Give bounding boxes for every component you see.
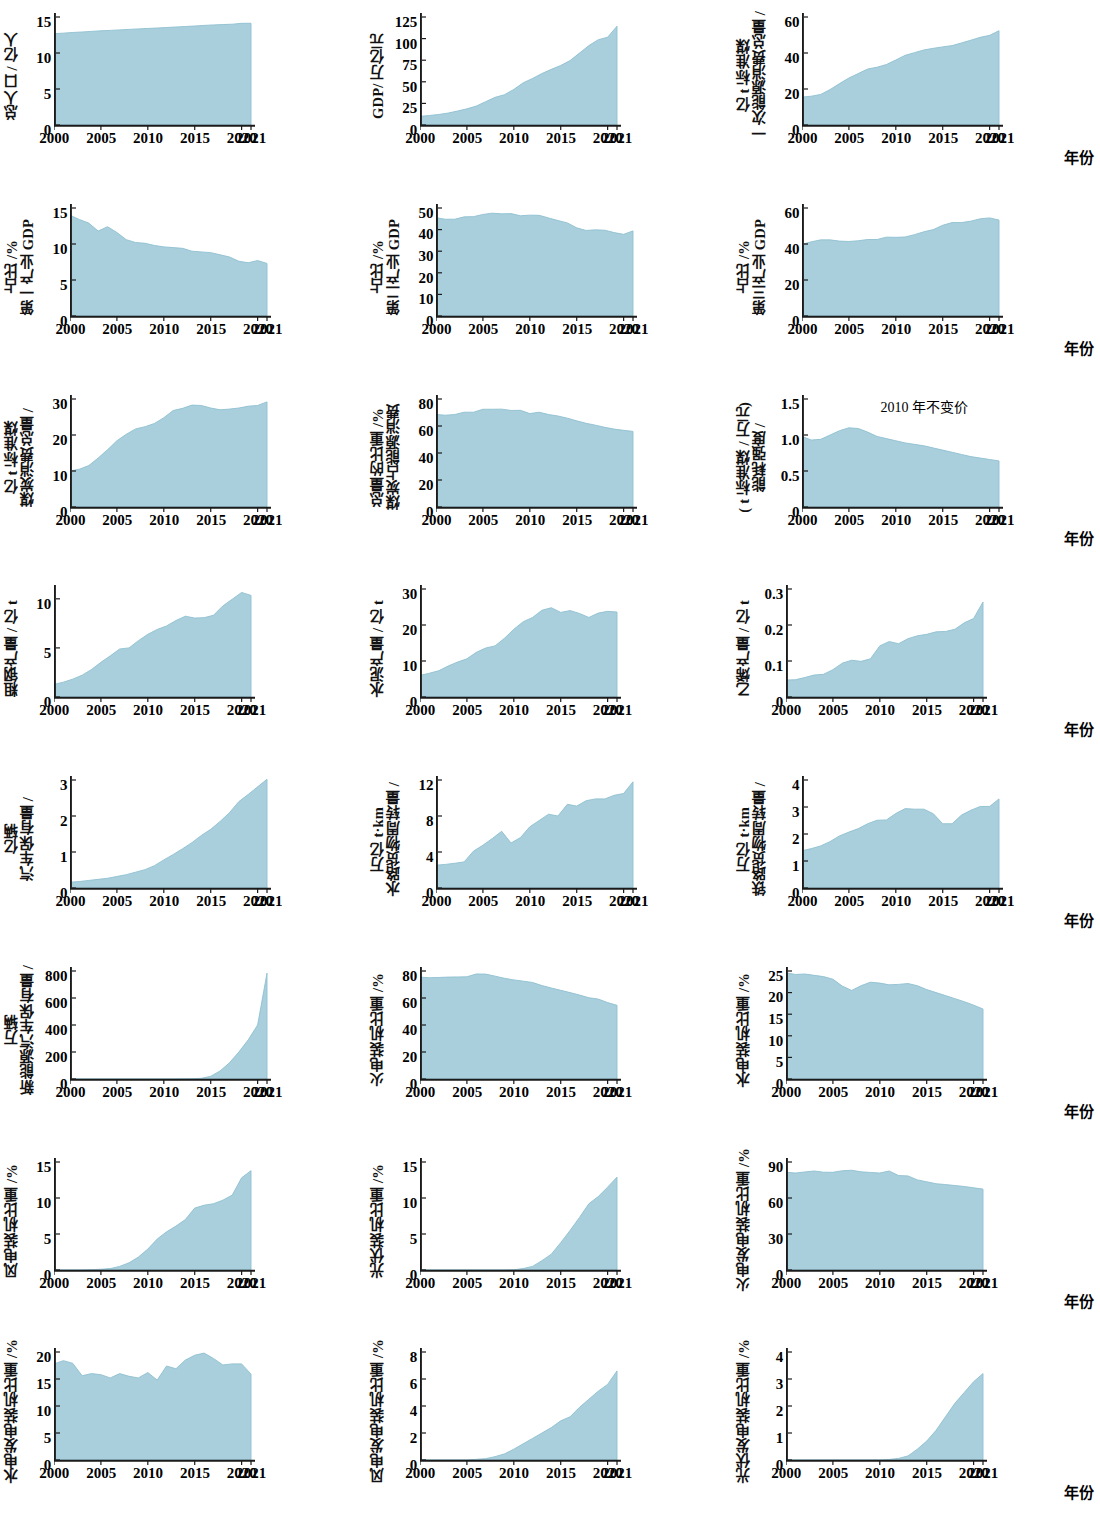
chart-panel-coal-share-of-energy: 煤炭占能源消费总量的比重 /%0204060802000200520102015… [366, 382, 732, 573]
y-tick-label: 20 [36, 1350, 51, 1365]
x-tick-label: 2015 [196, 894, 226, 909]
y-axis-title: 煤炭占能源消费 [386, 404, 402, 510]
y-tick-label: 30 [402, 587, 417, 602]
y-tick-label: 3 [60, 778, 68, 793]
plot-area [786, 1347, 983, 1465]
y-tick-labels: 051015 [20, 1162, 54, 1275]
x-tick-label: 2005 [818, 1466, 848, 1481]
x-tick-label: 2010 [881, 894, 911, 909]
chart-panel-population: 总人口 / 亿人051015200020052010201520202021 [0, 0, 366, 191]
y-tick-label: 10 [36, 1195, 51, 1210]
x-tick-label: 2005 [834, 322, 864, 337]
x-tick-label: 2000 [55, 513, 85, 528]
x-tick-label: 2010 [515, 894, 545, 909]
x-tick-label: 2015 [928, 322, 958, 337]
x-tick-label: 2015 [562, 513, 592, 528]
x-tick-label: 2015 [196, 1085, 226, 1100]
x-tick-label: 2005 [102, 513, 132, 528]
y-tick-label: 10 [36, 1404, 51, 1419]
chart-panel-vehicle-ownership: 汽车保有量 /亿辆0123200020052010201520202021 [0, 763, 366, 954]
plot-column: 0510200020052010201520202021 [20, 584, 251, 723]
x-tick-labels: 200020052010201520202021 [54, 703, 251, 723]
y-tick-label: 1.0 [781, 432, 800, 447]
plot-column: 0102030200020052010201520202021 [36, 394, 267, 533]
x-tick-label: 2000 [771, 1085, 801, 1100]
y-tick-labels: 01020304050 [402, 208, 436, 321]
x-tick-labels: 200020052010201520202021 [70, 322, 267, 342]
panel-svg [786, 1347, 991, 1467]
x-tick-label: 2010 [881, 513, 911, 528]
x-axis-title: 年份 [1064, 718, 1094, 739]
x-tick-label: 2015 [196, 513, 226, 528]
panel-svg [802, 203, 1007, 323]
chart-panel-railway-freight-turnover: 铁路货物周转量 /万亿 t·km012342000200520102015202… [732, 763, 1100, 954]
panel-svg [802, 12, 1007, 132]
y-tick-label: 2 [776, 1404, 784, 1419]
x-tick-label: 2000 [405, 1276, 435, 1291]
x-tick-labels: 200020052010201520202021 [802, 894, 999, 914]
y-tick-label: 5 [44, 1431, 52, 1446]
plot-area [54, 1347, 251, 1465]
series-area [54, 23, 251, 125]
y-tick-label: 10 [52, 468, 67, 483]
y-tick-label: 2 [60, 814, 68, 829]
x-tick-label: 2010 [499, 1466, 529, 1481]
plot-column: 01234200020052010201520202021 [768, 775, 999, 914]
plot-area [802, 203, 999, 321]
x-tick-label: 2015 [912, 1276, 942, 1291]
series-area [786, 1170, 983, 1270]
plot-column: 0102030200020052010201520202021 [386, 584, 617, 723]
panel-svg [420, 1347, 625, 1467]
y-axis-title-wrap: 铁路货物周转量 /万亿 t·km [736, 775, 768, 903]
x-tick-label: 2015 [196, 322, 226, 337]
y-tick-label: 20 [784, 277, 799, 292]
y-axis-title-wrap: 水电装机比重 /% [736, 966, 752, 1094]
x-tick-label: 2005 [468, 894, 498, 909]
x-tick-labels: 200020052010201520202021 [786, 703, 983, 723]
x-tick-label: 2021 [984, 322, 1014, 337]
y-tick-labels: 020406080 [402, 399, 436, 512]
y-tick-labels: 01234 [752, 1352, 786, 1465]
x-tick-label: 2000 [55, 1085, 85, 1100]
y-tick-label: 20 [402, 623, 417, 638]
y-tick-label: 5 [44, 646, 52, 661]
x-tick-label: 2000 [771, 703, 801, 718]
y-tick-label: 20 [52, 432, 67, 447]
series-area [70, 779, 267, 888]
y-axis-title: 火电装机比重 /% [370, 973, 386, 1087]
plot-area [786, 584, 983, 702]
chart-panel-thermal-power-generation-share: 火电发电装机比重 /%03060902000200520102015202020… [732, 1145, 1100, 1336]
x-tick-label: 2021 [968, 1276, 998, 1291]
y-axis-title: 乙烯产量 / 亿 t [736, 600, 752, 697]
y-tick-label: 5 [44, 87, 52, 102]
y-axis-title-wrap: 汽车保有量 /亿辆 [4, 775, 36, 903]
plot-column: 0510152025200020052010201520202021 [752, 966, 983, 1105]
y-axis-title: 风电装机比重 /% [4, 1164, 20, 1278]
x-tick-label: 2005 [834, 894, 864, 909]
y-axis-title-wrap: 风电发电装机比重 /% [370, 1347, 386, 1475]
x-tick-labels: 200020052010201520202021 [70, 513, 267, 533]
plot-area [70, 775, 267, 893]
y-axis-title: 水电发电装机比重 /% [4, 1339, 20, 1483]
plot-area [436, 203, 633, 321]
y-axis-title: 亿 t 标准煤 [4, 421, 20, 494]
panel-svg [436, 203, 641, 323]
series-area [802, 427, 999, 506]
x-tick-label: 2010 [133, 703, 163, 718]
x-tick-labels: 200020052010201520202021 [54, 1466, 251, 1486]
panel-svg [786, 966, 991, 1086]
chart-panel-gdp: GDP/ 万亿元02550751001252000200520102015202… [366, 0, 732, 191]
y-tick-label: 20 [402, 1049, 417, 1064]
y-tick-label: 20 [418, 477, 433, 492]
x-tick-label: 2000 [771, 1276, 801, 1291]
chart-panel-crude-steel-output: 粗钢产量 / 亿 t0510200020052010201520202021 [0, 572, 366, 763]
plot-area [436, 775, 633, 893]
y-tick-labels: 0204060 [768, 208, 802, 321]
x-tick-labels: 200020052010201520202021 [786, 1276, 983, 1296]
panel-svg [54, 1157, 259, 1277]
x-tick-label: 2021 [602, 1085, 632, 1100]
x-tick-label: 2010 [515, 322, 545, 337]
plot-area [420, 12, 617, 130]
x-tick-label: 2005 [86, 131, 116, 146]
x-tick-labels: 200020052010201520202021 [436, 894, 633, 914]
